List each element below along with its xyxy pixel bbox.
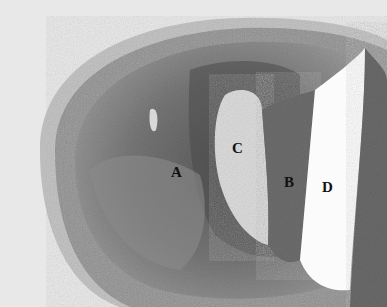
- label-d: D: [322, 180, 333, 195]
- label-a: A: [171, 165, 182, 180]
- tissue-image: [0, 0, 387, 307]
- micrograph: A B C D: [0, 0, 387, 307]
- label-c: C: [232, 141, 243, 156]
- label-b: B: [284, 175, 294, 190]
